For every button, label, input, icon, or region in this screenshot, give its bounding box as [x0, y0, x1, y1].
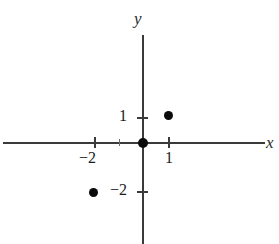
origin-point [138, 138, 148, 148]
y-tick-label-pos1: 1 [119, 108, 127, 124]
y-tick-pos1 [137, 117, 148, 119]
x-tick-label-pos1: 1 [165, 150, 173, 166]
coordinate-plane-figure: −2 1 1 −2 x y [0, 0, 279, 244]
data-point-neg2-neg2 [89, 188, 98, 197]
x-tick-label-neg2: −2 [79, 150, 96, 166]
x-tick-pos1 [168, 137, 170, 148]
x-tick-neg1 [119, 139, 120, 146]
y-tick-neg2 [137, 191, 148, 193]
x-axis-label: x [266, 134, 274, 151]
x-tick-neg2 [94, 137, 96, 148]
y-tick-label-neg2: −2 [110, 182, 127, 198]
x-axis-line [3, 142, 265, 144]
data-point-1-1 [164, 111, 173, 120]
y-axis-label: y [134, 10, 142, 27]
